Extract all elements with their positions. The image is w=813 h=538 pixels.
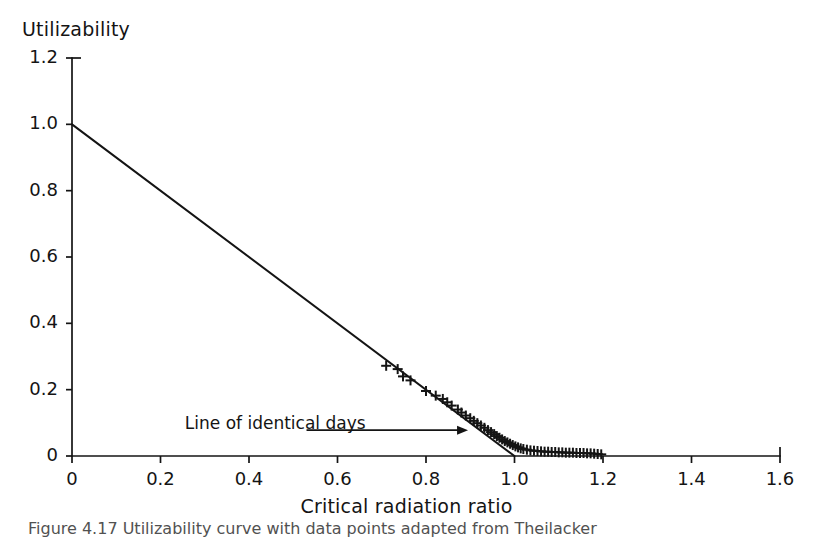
axes-group xyxy=(66,58,780,463)
y-tick-label: 0.2 xyxy=(6,378,58,399)
x-tick-label: 1.2 xyxy=(573,468,633,489)
data-series-group xyxy=(72,124,606,459)
x-tick-label: 0.6 xyxy=(308,468,368,489)
figure-caption: Figure 4.17 Utilizability curve with dat… xyxy=(28,519,808,538)
y-axis-title: Utilizability xyxy=(22,18,130,40)
y-tick-label: 1.2 xyxy=(6,46,58,67)
y-tick-label: 0.6 xyxy=(6,245,58,266)
y-tick-label: 1.0 xyxy=(6,112,58,133)
y-tick-label: 0.4 xyxy=(6,311,58,332)
x-tick-label: 0.2 xyxy=(131,468,191,489)
x-tick-label: 0 xyxy=(42,468,102,489)
x-axis-title: Critical radiation ratio xyxy=(0,495,813,517)
y-tick-label: 0.8 xyxy=(6,179,58,200)
x-tick-label: 1.0 xyxy=(485,468,545,489)
annotation-line-of-identical-days: Line of identical days xyxy=(185,413,366,433)
x-tick-label: 1.6 xyxy=(750,468,810,489)
x-tick-label: 0.8 xyxy=(396,468,456,489)
x-tick-label: 1.4 xyxy=(662,468,722,489)
y-tick-label: 0 xyxy=(6,444,58,465)
x-tick-label: 0.4 xyxy=(219,468,279,489)
